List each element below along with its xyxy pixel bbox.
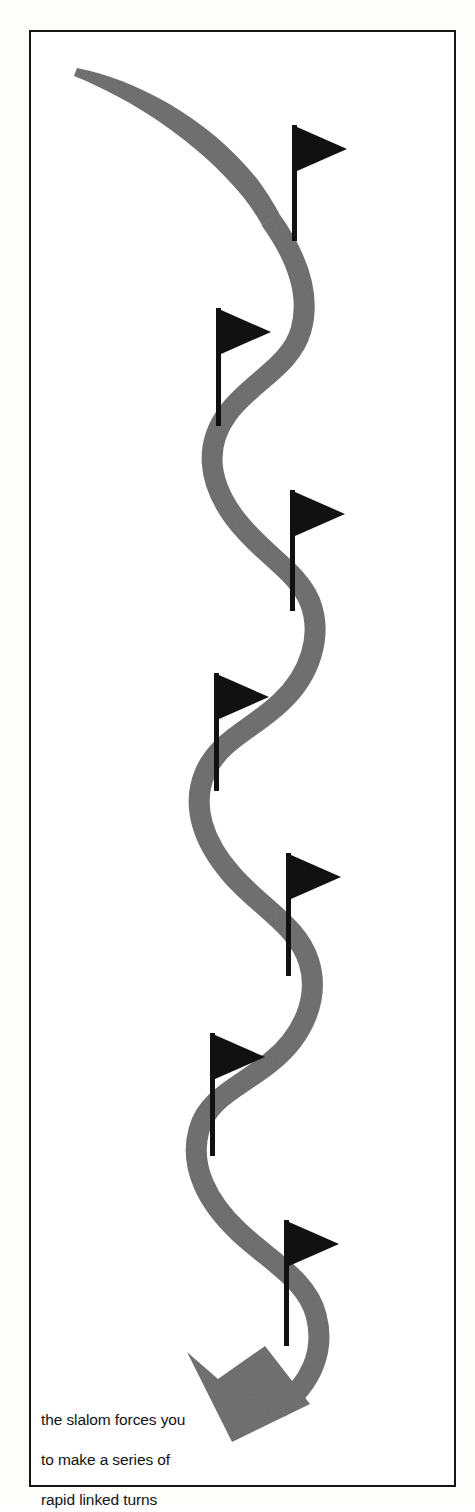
figure-caption: the slalom forces you to make a series o… xyxy=(41,1390,271,1512)
flag-banner-3 xyxy=(295,492,345,536)
flag-pole-7 xyxy=(284,1220,289,1346)
caption-line-2: to make a series of xyxy=(41,1450,271,1470)
caption-line-1: the slalom forces you xyxy=(41,1410,271,1430)
flag-banner-1 xyxy=(297,127,347,171)
flag-pole-1 xyxy=(292,125,297,241)
flag-banner-5 xyxy=(291,855,341,899)
flag-pole-2 xyxy=(216,308,221,426)
flag-pole-5 xyxy=(286,853,291,976)
slalom-track-path xyxy=(74,68,319,1442)
flag-pole-6 xyxy=(210,1033,215,1156)
flag-pole-4 xyxy=(214,673,219,791)
track-lead-in xyxy=(74,68,279,225)
slalom-flag-1 xyxy=(292,125,347,241)
slalom-diagram xyxy=(29,30,456,1487)
flag-banner-7 xyxy=(289,1222,339,1266)
flag-pole-3 xyxy=(290,490,295,611)
caption-line-3: rapid linked turns xyxy=(41,1490,271,1510)
flag-banner-2 xyxy=(221,310,271,354)
